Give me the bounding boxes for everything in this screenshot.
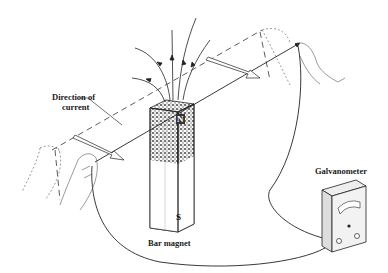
direction-label-line1: Direction of [52, 92, 95, 102]
north-pole-label: N [176, 114, 185, 124]
induction-diagram: Direction of current Bar magnet Galvanom… [0, 0, 388, 273]
bar-magnet-label: Bar magnet [148, 238, 191, 248]
wire [92, 44, 343, 266]
bar-magnet [150, 100, 194, 232]
left-hands [22, 146, 97, 210]
galvanometer-label: Galvanometer [315, 166, 367, 176]
direction-label-line2: current [62, 102, 89, 112]
diagram-drawing [0, 0, 388, 273]
magnetic-field-lines [132, 18, 210, 102]
galvanometer [322, 180, 366, 252]
south-pole-label: S [176, 212, 181, 222]
right-hands [262, 29, 345, 86]
